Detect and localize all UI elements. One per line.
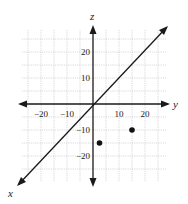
x-axis-label: x xyxy=(7,187,13,199)
z-axis-up-arrow-icon xyxy=(90,25,97,34)
z-tick-label: −10 xyxy=(76,125,91,135)
y-axis-left-arrow-icon xyxy=(18,101,27,108)
data-point xyxy=(129,127,135,133)
z-tick-label: 20 xyxy=(81,47,91,57)
y-tick-labels: −20−101020 xyxy=(34,109,150,119)
z-axis-down-arrow-icon xyxy=(90,178,97,187)
data-points xyxy=(97,127,135,146)
coordinate-diagram: z y x −20−101020 2010−10−20 xyxy=(0,0,188,204)
z-tick-label: −20 xyxy=(76,151,91,161)
grid xyxy=(22,30,166,182)
data-point xyxy=(97,140,103,146)
y-axis-right-arrow-icon xyxy=(161,101,170,108)
y-tick-label: −10 xyxy=(60,109,75,119)
z-tick-label: 10 xyxy=(81,73,91,83)
y-axis-label: y xyxy=(172,98,178,110)
y-tick-label: 20 xyxy=(141,109,151,119)
y-tick-label: −20 xyxy=(34,109,49,119)
y-tick-label: 10 xyxy=(115,109,125,119)
z-axis-label: z xyxy=(89,10,95,22)
